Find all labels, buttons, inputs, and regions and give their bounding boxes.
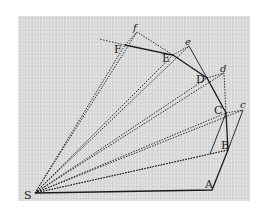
label-S: S bbox=[24, 189, 32, 202]
label-d: d bbox=[220, 63, 226, 74]
label-f: f bbox=[132, 22, 139, 33]
label-C: C bbox=[214, 104, 222, 117]
label-A: A bbox=[204, 178, 214, 191]
label-F: F bbox=[114, 43, 122, 56]
label-e: e bbox=[185, 36, 191, 47]
label-E: E bbox=[162, 52, 170, 65]
label-c: c bbox=[240, 99, 246, 110]
orbit-diagram: S A B C D E F c d e f bbox=[0, 0, 269, 217]
radial-lines bbox=[35, 32, 243, 193]
label-B: B bbox=[221, 139, 229, 152]
label-D: D bbox=[196, 73, 205, 86]
polygon-path bbox=[35, 45, 228, 193]
